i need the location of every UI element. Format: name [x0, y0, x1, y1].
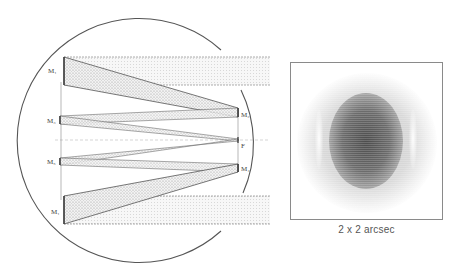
label-m1-top: M₁	[48, 67, 57, 75]
psf-caption: 2 x 2 arcsec	[290, 224, 443, 235]
label-m2: M₂	[241, 111, 250, 119]
label-m1-bottom: M₁	[51, 208, 60, 216]
psf-image	[290, 62, 443, 220]
enclosure-circle	[17, 18, 253, 262]
label-m5: M₅	[47, 158, 56, 166]
psf-scanline-texture	[291, 63, 442, 219]
label-m4: M₄	[241, 165, 250, 173]
label-m3: M₃	[47, 117, 56, 125]
label-focus: F	[241, 142, 245, 150]
optical-layout-diagram: M₁ M₃ M₅ M₁ M₂ F M₄	[0, 0, 270, 268]
